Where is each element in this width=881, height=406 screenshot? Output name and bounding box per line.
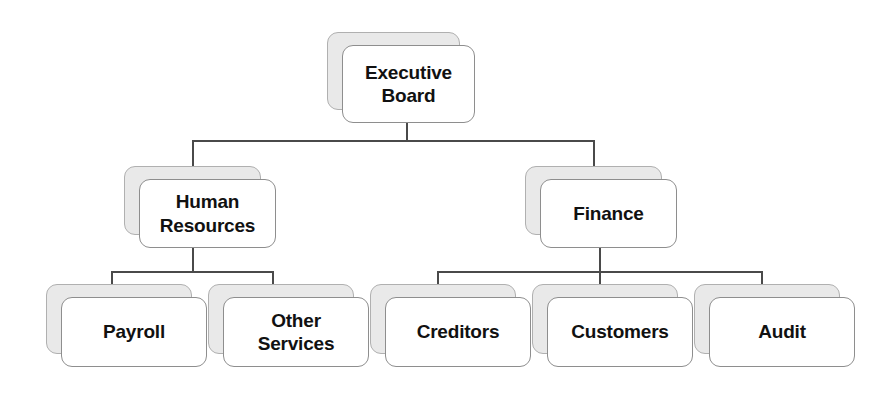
connector-to-payroll <box>111 271 113 285</box>
connector-level1-bus <box>192 140 408 142</box>
connector-to-finance <box>593 140 595 166</box>
card-face: Payroll <box>61 297 207 367</box>
card-face: Creditors <box>385 297 531 367</box>
node-finance[interactable]: Finance <box>525 166 662 235</box>
node-label: Customers <box>563 320 676 343</box>
node-other-services[interactable]: Other Services <box>208 284 354 354</box>
node-label: Creditors <box>409 320 508 343</box>
connector-to-creditors <box>437 271 439 285</box>
node-label: Audit <box>750 320 814 343</box>
node-creditors[interactable]: Creditors <box>370 284 516 354</box>
card-face: Customers <box>547 297 693 367</box>
connector-executive-stem <box>406 122 408 141</box>
node-label: Payroll <box>95 320 173 343</box>
connector-hr-bus <box>111 271 274 273</box>
card-face: Finance <box>540 179 677 248</box>
card-face: Human Resources <box>139 179 276 248</box>
connector-level1-bus-right <box>406 140 595 142</box>
connector-to-human-resources <box>192 140 194 166</box>
card-face: Executive Board <box>342 45 475 123</box>
node-label: Executive Board <box>357 61 460 107</box>
connector-to-other-services <box>272 271 274 285</box>
org-chart-diagram: Executive Board Human Resources Finance … <box>0 0 881 406</box>
connector-to-customers <box>599 271 601 285</box>
card-face: Other Services <box>223 297 369 367</box>
card-face: Audit <box>709 297 855 367</box>
connector-hr-stem <box>192 247 194 272</box>
node-payroll[interactable]: Payroll <box>46 284 192 354</box>
node-executive-board[interactable]: Executive Board <box>327 32 460 110</box>
node-label: Human Resources <box>152 190 263 236</box>
node-label: Finance <box>565 202 651 225</box>
connector-finance-stem <box>599 247 601 272</box>
node-label: Other Services <box>250 309 343 355</box>
connector-to-audit <box>761 271 763 285</box>
node-audit[interactable]: Audit <box>694 284 840 354</box>
node-human-resources[interactable]: Human Resources <box>124 166 261 235</box>
node-customers[interactable]: Customers <box>532 284 678 354</box>
